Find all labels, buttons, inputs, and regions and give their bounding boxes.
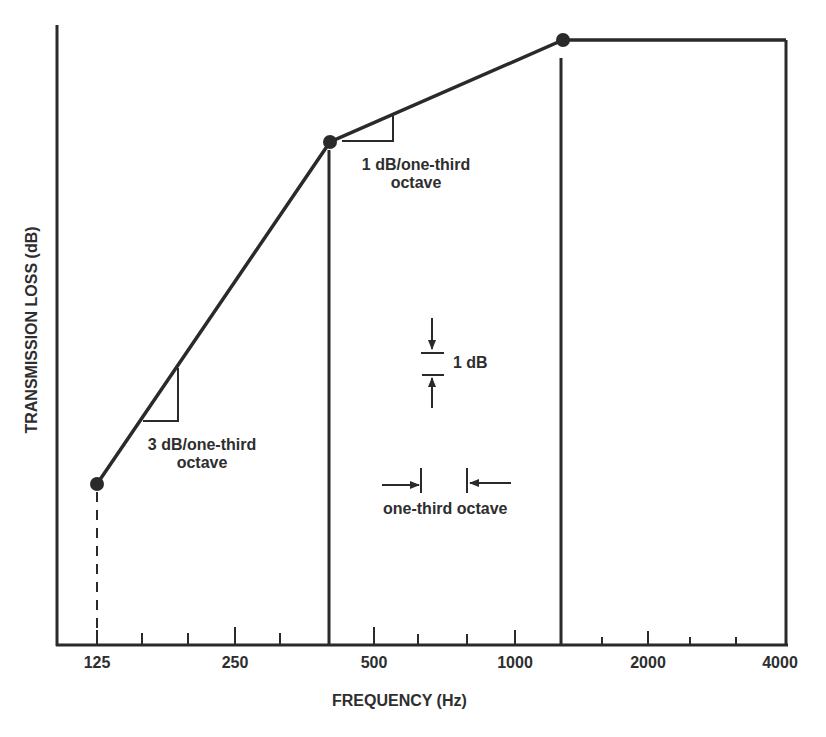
one-third-octave-marker — [382, 468, 511, 493]
tick-label-4000: 4000 — [762, 654, 798, 672]
slope-triangle-low — [143, 368, 178, 421]
slope-mid-line2: octave — [342, 174, 490, 192]
diagram-canvas — [0, 0, 826, 737]
data-point-1 — [90, 477, 104, 491]
tick-label-2000: 2000 — [630, 654, 666, 672]
tick-label-125: 125 — [84, 654, 111, 672]
slope-low-line1: 3 dB/one-third — [118, 436, 286, 454]
slope-mid-annotation: 1 dB/one-third octave — [342, 156, 490, 192]
data-point-2 — [323, 135, 337, 149]
one-third-octave-label: one-third octave — [383, 500, 507, 518]
data-point-3 — [556, 33, 570, 47]
slope-triangle-mid — [342, 116, 393, 141]
one-db-label: 1 dB — [453, 354, 488, 372]
tick-label-250: 250 — [222, 654, 249, 672]
slope-low-annotation: 3 dB/one-third octave — [118, 436, 286, 472]
x-axis-label: FREQUENCY (Hz) — [332, 692, 467, 710]
transmission-loss-curve — [97, 40, 786, 484]
tick-label-1000: 1000 — [497, 654, 533, 672]
slope-low-line2: octave — [118, 454, 286, 472]
slope-mid-line1: 1 dB/one-third — [342, 156, 490, 174]
x-ticks — [97, 627, 736, 645]
one-db-marker — [421, 318, 444, 408]
y-axis-label: TRANSMISSION LOSS (dB) — [23, 226, 41, 433]
tick-label-500: 500 — [361, 654, 388, 672]
